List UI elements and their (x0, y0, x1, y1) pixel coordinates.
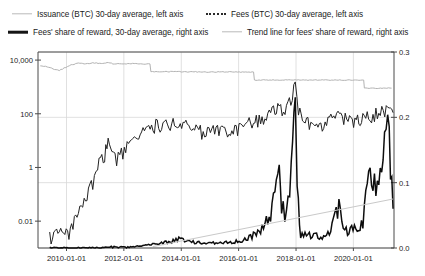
chart-canvas (0, 44, 425, 276)
chart-screenshot: Issuance (BTC) 30-day average, left axis… (0, 0, 425, 276)
legend-label-trend: Trend line for fees' share of reward, ri… (247, 28, 408, 37)
fees-share-of-reward-30-day-average-right-axis-line (50, 97, 393, 248)
issuance-btc-30-day-average-left-axis-line (40, 63, 391, 89)
legend-label-fees-share: Fees' share of reward, 30-day average, r… (33, 28, 208, 37)
gridlines (38, 52, 394, 248)
x-axis-tick: 2020-01-01 (334, 254, 373, 263)
axis-frame (38, 52, 394, 248)
legend-swatch-issuance-icon (12, 9, 32, 19)
plot-area: 10,00010010.01 0.00.10.20.3 2010-01-0120… (0, 44, 425, 276)
legend-swatch-fees-icon (206, 9, 226, 19)
legend-label-fees: Fees (BTC) 30-day average, left axis (231, 10, 363, 19)
y-axis-right-tick: 0.2 (399, 113, 410, 122)
chart-legend: Issuance (BTC) 30-day average, left axis… (0, 0, 425, 44)
trend-line-for-fees-share-of-reward-right-axis-line (153, 199, 393, 247)
y-axis-left: 10,00010010.01 (0, 44, 36, 276)
legend-swatch-fees-share-icon (8, 27, 28, 37)
x-axis-tick: 2016-01-01 (219, 254, 258, 263)
y-axis-right-tick: 0.3 (399, 48, 410, 57)
y-axis-right-tick: 0.0 (399, 244, 410, 253)
legend-item-trend: Trend line for fees' share of reward, ri… (222, 25, 408, 39)
x-axis-tick: 2018-01-01 (277, 254, 316, 263)
legend-swatch-trend-icon (222, 27, 242, 37)
y-axis-right: 0.00.10.20.3 (395, 44, 425, 276)
legend-item-issuance: Issuance (BTC) 30-day average, left axis (12, 7, 183, 21)
legend-item-fees-share: Fees' share of reward, 30-day average, r… (8, 25, 208, 39)
tick-marks (35, 52, 397, 251)
x-axis-tick: 2012-01-01 (104, 254, 143, 263)
y-axis-left-tick: 1 (29, 163, 33, 172)
data-series-layer (40, 63, 393, 249)
y-axis-left-tick: 100 (20, 109, 33, 118)
y-axis-left-tick: 10,000 (10, 56, 33, 65)
y-axis-right-tick: 0.1 (399, 178, 410, 187)
legend-item-fees: Fees (BTC) 30-day average, left axis (206, 7, 363, 21)
x-axis-tick: 2010-01-01 (47, 254, 86, 263)
x-axis-tick: 2014-01-01 (162, 254, 201, 263)
y-axis-left-tick: 0.01 (18, 217, 33, 226)
legend-label-issuance: Issuance (BTC) 30-day average, left axis (37, 10, 183, 19)
